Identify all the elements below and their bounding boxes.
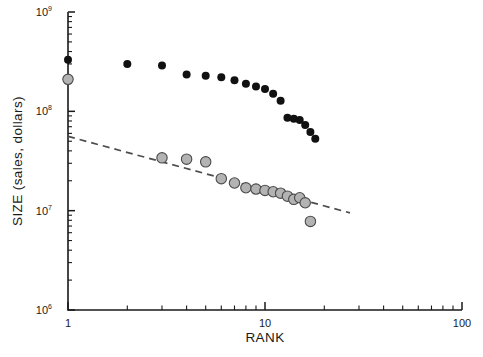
series-lower-gray-points — [63, 74, 316, 226]
data-point — [63, 74, 73, 84]
data-point — [277, 97, 285, 105]
data-point — [202, 72, 210, 80]
y-tick-label: 109 — [36, 5, 52, 18]
data-point — [183, 70, 191, 78]
data-point — [241, 183, 251, 193]
plot-axes — [68, 12, 462, 310]
data-point — [64, 56, 72, 64]
rank-size-chart-figure: 106107108109 110100 RANK SIZE (sales, do… — [0, 0, 483, 357]
x-tick-label: 10 — [259, 317, 271, 329]
data-point — [200, 157, 210, 167]
y-axis-title: SIZE (sales, dollars) — [10, 96, 25, 226]
data-point — [305, 216, 315, 226]
y-tick-label: 108 — [36, 104, 52, 117]
data-point — [242, 80, 250, 88]
data-point — [311, 135, 319, 143]
rank-size-scatter-plot: 106107108109 110100 RANK SIZE (sales, do… — [0, 0, 483, 357]
data-point — [301, 121, 309, 129]
x-axis-tick-labels: 110100 — [65, 317, 471, 329]
data-point — [230, 76, 238, 84]
x-axis-ticks — [68, 302, 462, 310]
x-tick-label: 100 — [453, 317, 471, 329]
data-point — [217, 73, 225, 81]
data-point — [216, 173, 226, 183]
y-tick-label: 106 — [36, 303, 52, 316]
data-point — [261, 85, 269, 93]
data-point — [306, 128, 314, 136]
data-point — [181, 154, 191, 164]
data-point — [157, 153, 167, 163]
x-tick-label: 1 — [65, 317, 71, 329]
x-axis-title: RANK — [245, 330, 284, 345]
y-tick-label: 107 — [36, 204, 52, 217]
data-point — [158, 61, 166, 69]
series-upper-black-points — [64, 56, 319, 143]
data-point — [269, 90, 277, 98]
axis-frame-line — [68, 12, 462, 310]
y-axis-tick-labels: 106107108109 — [36, 5, 52, 316]
data-point — [123, 60, 131, 68]
data-point — [252, 82, 260, 90]
data-point — [229, 178, 239, 188]
data-point — [300, 198, 310, 208]
